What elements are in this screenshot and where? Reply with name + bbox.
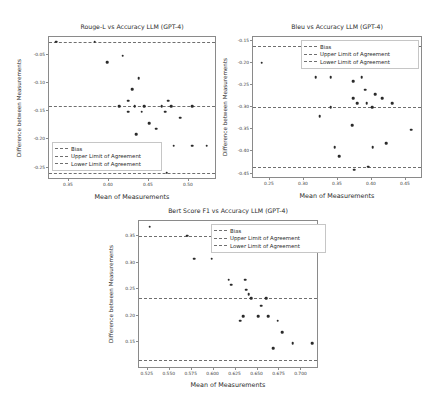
legend-dash-icon: [214, 238, 227, 239]
x-tickmark: [278, 368, 279, 370]
y-tick-label: 0.15: [116, 339, 135, 344]
x-tickmark: [257, 368, 258, 370]
y-tick-label: 0.35: [116, 232, 135, 237]
x-tickmark: [300, 368, 301, 370]
x-tick-label: 0.650: [250, 371, 263, 376]
x-tickmark: [191, 368, 192, 370]
data-point: [211, 258, 214, 261]
x-tickmark: [213, 368, 214, 370]
x-tickmark: [147, 368, 148, 370]
data-point: [272, 347, 275, 350]
x-tick-label: 0.675: [272, 371, 285, 376]
chart-panel-3: Bert Score F1 vs Accuracy LLM (GPT-4)0.5…: [0, 0, 437, 401]
bias-line-3: [139, 298, 317, 299]
data-point: [247, 293, 250, 296]
data-point: [265, 297, 268, 300]
data-point: [291, 342, 294, 345]
y-tickmark: [136, 315, 138, 316]
legend-dash-icon: [214, 245, 227, 246]
legend-dash-icon: [214, 230, 227, 231]
y-tickmark: [136, 235, 138, 236]
legend-label: Lower Limit of Agreement: [230, 243, 300, 249]
x-tick-label: 0.700: [294, 371, 307, 376]
legend-item[interactable]: Lower Limit of Agreement: [214, 242, 322, 250]
data-point: [245, 288, 248, 291]
data-point: [242, 315, 245, 318]
legend-item[interactable]: Upper Limit of Agreement: [214, 235, 322, 243]
y-tick-label: 0.20: [116, 312, 135, 317]
bland-altman-figure: Rouge-L vs Accuracy LLM (GPT-4)0.350.400…: [0, 0, 437, 401]
legend-3: BiasUpper Limit of AgreementLower Limit …: [211, 224, 326, 253]
y-tick-label: 0.30: [116, 259, 135, 264]
data-point: [311, 342, 314, 345]
y-tick-label: 0.25: [116, 286, 135, 291]
data-point: [193, 258, 196, 261]
data-point: [257, 315, 260, 318]
data-point: [281, 331, 284, 334]
lower-limit-line-3: [139, 360, 317, 361]
legend-label: Bias: [230, 228, 241, 234]
data-point: [148, 226, 151, 229]
x-tick-label: 0.625: [228, 371, 241, 376]
data-point: [244, 278, 247, 281]
x-axis-label-3: Mean of Measurements: [191, 381, 266, 389]
data-point: [239, 319, 242, 322]
x-tickmark: [235, 368, 236, 370]
y-tickmark: [136, 288, 138, 289]
x-tick-label: 0.575: [184, 371, 197, 376]
data-point: [250, 297, 253, 300]
data-point: [276, 319, 279, 322]
y-tickmark: [136, 262, 138, 263]
data-point: [267, 315, 270, 318]
y-tickmark: [136, 341, 138, 342]
legend-label: Upper Limit of Agreement: [230, 235, 300, 241]
chart-title-3: Bert Score F1 vs Accuracy LLM (GPT-4): [168, 207, 288, 214]
data-point: [227, 278, 230, 281]
x-tick-label: 0.600: [206, 371, 219, 376]
x-tickmark: [169, 368, 170, 370]
legend-item[interactable]: Bias: [214, 227, 322, 235]
data-point: [186, 234, 189, 237]
x-tick-label: 0.550: [162, 371, 175, 376]
data-point: [230, 284, 233, 287]
x-tick-label: 0.525: [140, 371, 153, 376]
y-axis-label-3: Difference between Measurements: [108, 245, 114, 343]
data-point: [260, 304, 263, 307]
